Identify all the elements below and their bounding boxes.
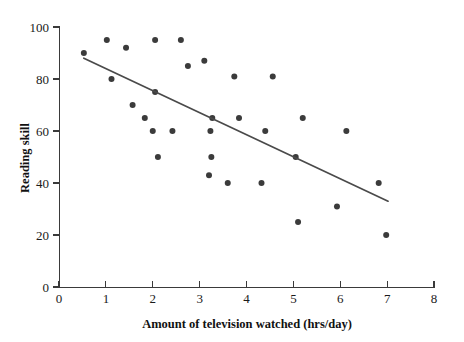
x-tick-label: 0 xyxy=(56,291,63,306)
x-tick-label: 8 xyxy=(431,291,438,306)
scatter-plot-figure: 020406080100 012345678 Amount of televis… xyxy=(0,0,464,342)
data-point xyxy=(104,37,110,43)
y-tick-label: 40 xyxy=(36,176,49,191)
data-point xyxy=(155,154,161,160)
y-tick-label: 20 xyxy=(36,228,49,243)
data-point xyxy=(208,154,214,160)
data-points-group xyxy=(81,37,389,238)
y-tick-label: 100 xyxy=(30,20,50,35)
x-axis-title: Amount of television watched (hrs/day) xyxy=(142,317,352,331)
x-tick-label: 6 xyxy=(337,291,344,306)
data-point xyxy=(150,128,156,134)
x-tick-label: 1 xyxy=(103,291,110,306)
x-axis-tick-labels: 012345678 xyxy=(56,291,438,306)
x-tick-label: 5 xyxy=(290,291,297,306)
y-tick-label: 0 xyxy=(43,280,50,295)
y-axis-ticks xyxy=(53,27,60,287)
data-point xyxy=(207,128,213,134)
x-tick-label: 2 xyxy=(150,291,157,306)
x-tick-label: 3 xyxy=(196,291,203,306)
data-point xyxy=(206,172,212,178)
y-tick-label: 80 xyxy=(36,72,49,87)
data-point xyxy=(270,73,276,79)
x-axis-ticks xyxy=(59,281,434,288)
data-point xyxy=(130,102,136,108)
data-point xyxy=(383,232,389,238)
data-point xyxy=(109,76,115,82)
data-point xyxy=(236,115,242,121)
data-point xyxy=(225,180,231,186)
data-point xyxy=(152,37,158,43)
data-point xyxy=(123,45,129,51)
data-point xyxy=(334,203,340,209)
data-point xyxy=(343,128,349,134)
trend-line xyxy=(84,58,388,201)
x-tick-label: 4 xyxy=(243,291,250,306)
data-point xyxy=(259,180,265,186)
data-point xyxy=(295,219,301,225)
data-point xyxy=(231,73,237,79)
data-point xyxy=(376,180,382,186)
y-axis-title: Reading skill xyxy=(18,123,32,193)
data-point xyxy=(300,115,306,121)
data-point xyxy=(169,128,175,134)
data-point xyxy=(178,37,184,43)
x-tick-label: 7 xyxy=(384,291,391,306)
data-point xyxy=(81,50,87,56)
plot-canvas: 020406080100 012345678 Amount of televis… xyxy=(0,0,464,342)
data-point xyxy=(262,128,268,134)
axes-group xyxy=(59,27,434,288)
data-point xyxy=(201,58,207,64)
data-point xyxy=(142,115,148,121)
y-axis-tick-labels: 020406080100 xyxy=(30,20,50,295)
y-tick-label: 60 xyxy=(36,124,49,139)
data-point xyxy=(185,63,191,69)
